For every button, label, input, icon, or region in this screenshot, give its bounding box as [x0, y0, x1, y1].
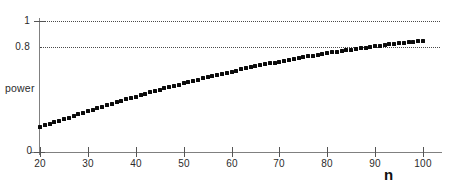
data-point: [373, 44, 377, 48]
data-point: [177, 83, 181, 87]
data-point: [105, 103, 109, 107]
data-point: [411, 40, 415, 44]
data-point: [230, 70, 234, 74]
x-tick-70: [279, 147, 280, 157]
data-point: [325, 51, 329, 55]
x-tick-60: [232, 147, 233, 157]
data-point: [387, 42, 391, 46]
data-point: [206, 75, 210, 79]
data-point: [330, 50, 334, 54]
data-point: [115, 100, 119, 104]
data-point: [196, 78, 200, 82]
data-point: [57, 119, 61, 123]
data-point: [143, 92, 147, 96]
data-point: [258, 63, 262, 67]
data-point: [392, 42, 396, 46]
data-point: [277, 60, 281, 64]
x-tick-label-100: 100: [408, 158, 438, 169]
data-point: [72, 114, 76, 118]
x-tick-label-80: 80: [312, 158, 342, 169]
plot-area: 2030405060708090100: [0, 0, 450, 186]
data-point: [172, 84, 176, 88]
data-point: [220, 72, 224, 76]
data-point: [287, 58, 291, 62]
data-point: [383, 43, 387, 47]
data-point: [359, 46, 363, 50]
data-point: [402, 41, 406, 45]
data-point: [320, 52, 324, 56]
data-point: [263, 62, 267, 66]
x-tick-90: [375, 147, 376, 157]
data-point: [301, 55, 305, 59]
data-point: [201, 76, 205, 80]
data-point: [186, 80, 190, 84]
data-point: [139, 93, 143, 97]
data-point: [253, 64, 257, 68]
data-point: [52, 120, 56, 124]
data-point: [273, 61, 277, 65]
data-point: [124, 97, 128, 101]
x-tick-40: [136, 147, 137, 157]
data-point: [354, 47, 358, 51]
x-tick-label-30: 30: [73, 158, 103, 169]
data-point: [100, 105, 104, 109]
data-point: [182, 81, 186, 85]
data-point: [244, 66, 248, 70]
data-point: [282, 59, 286, 63]
data-point: [407, 40, 411, 44]
data-point: [81, 111, 85, 115]
data-point: [76, 112, 80, 116]
x-tick-label-90: 90: [360, 158, 390, 169]
data-point: [86, 109, 90, 113]
data-point: [340, 49, 344, 53]
x-tick-20: [40, 147, 41, 157]
data-point: [67, 116, 71, 120]
data-point: [48, 122, 52, 126]
data-point: [349, 48, 353, 52]
x-tick-label-70: 70: [264, 158, 294, 169]
x-tick-label-20: 20: [25, 158, 55, 169]
data-point: [225, 71, 229, 75]
data-point: [134, 95, 138, 99]
data-point: [249, 65, 253, 69]
data-point: [397, 41, 401, 45]
data-point: [162, 86, 166, 90]
x-tick-30: [88, 147, 89, 157]
data-point: [416, 39, 420, 43]
x-tick-50: [184, 147, 185, 157]
data-point: [148, 90, 152, 94]
data-point: [364, 46, 368, 50]
data-point: [297, 56, 301, 60]
data-point: [91, 108, 95, 112]
data-point: [129, 96, 133, 100]
data-point: [119, 99, 123, 103]
data-point: [43, 123, 47, 127]
x-tick-100: [423, 147, 424, 157]
data-point: [210, 74, 214, 78]
data-point: [311, 54, 315, 58]
data-point: [110, 102, 114, 106]
data-point: [268, 61, 272, 65]
data-point: [306, 54, 310, 58]
data-point: [234, 69, 238, 73]
data-point: [153, 89, 157, 93]
data-point: [158, 88, 162, 92]
data-point: [378, 44, 382, 48]
data-point: [292, 57, 296, 61]
data-point: [38, 125, 42, 129]
data-point: [167, 85, 171, 89]
x-tick-80: [327, 147, 328, 157]
data-point: [95, 106, 99, 110]
data-point: [335, 50, 339, 54]
data-point: [239, 67, 243, 71]
data-point: [368, 45, 372, 49]
data-point: [344, 48, 348, 52]
x-tick-label-60: 60: [217, 158, 247, 169]
data-point: [215, 73, 219, 77]
data-point: [316, 53, 320, 57]
power-curve-chart: 1 0.8 0 power n 2030405060708090100: [0, 0, 450, 186]
data-point: [421, 39, 425, 43]
data-point: [62, 117, 66, 121]
x-tick-label-50: 50: [169, 158, 199, 169]
data-point: [191, 79, 195, 83]
